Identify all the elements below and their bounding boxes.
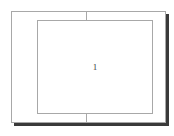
bottom-divider-line (86, 113, 87, 123)
figure-canvas: 1 (0, 0, 174, 136)
reference-numeral-label: 1 (37, 20, 153, 114)
